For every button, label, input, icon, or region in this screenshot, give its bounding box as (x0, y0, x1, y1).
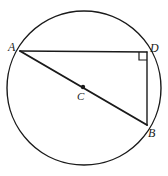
vertex-label-a: A (8, 41, 15, 53)
geometry-canvas (0, 0, 168, 176)
vertex-label-c: C (77, 90, 84, 102)
segment-ad (20, 51, 147, 52)
vertex-label-d: D (150, 42, 159, 54)
geometry-figure: A D B C (0, 0, 168, 176)
vertex-label-b: B (148, 127, 155, 139)
right-angle-marker-d (139, 52, 147, 60)
center-dot (81, 85, 85, 89)
